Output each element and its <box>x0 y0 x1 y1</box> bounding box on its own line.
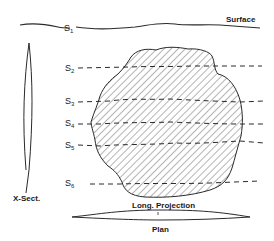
section-label-s3: S3 <box>65 96 75 107</box>
section-label-s4: S4 <box>65 118 75 129</box>
plan-shape <box>72 210 250 220</box>
surface-line <box>20 23 260 29</box>
cross-section-label: X-Sect. <box>13 194 40 203</box>
section-label-s6: S6 <box>65 178 75 189</box>
surface-label: Surface <box>226 15 256 24</box>
section-label-s2: S2 <box>65 63 75 74</box>
cross-section-shape <box>24 43 32 193</box>
projection-label: Long. Projection <box>132 201 195 210</box>
orebody-diagram: Surface S1 S2 S3 S4 S5 S6 X-Sect. Long. … <box>0 0 274 241</box>
longitudinal-projection-shape <box>80 40 250 205</box>
section-label-s1: S1 <box>64 23 74 34</box>
section-label-s5: S5 <box>65 140 75 151</box>
plan-label: Plan <box>152 225 169 234</box>
